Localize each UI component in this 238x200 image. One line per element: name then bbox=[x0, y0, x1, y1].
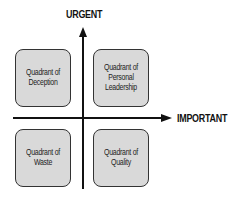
quadrant-label: Quadrant of Deception bbox=[22, 68, 65, 88]
important-label: IMPORTANT bbox=[177, 112, 227, 124]
quadrant-deception: Quadrant of Deception bbox=[15, 49, 71, 107]
horizontal-arrowhead bbox=[161, 114, 172, 122]
quadrant-quality: Quadrant of Quality bbox=[93, 129, 149, 187]
vertical-arrowhead bbox=[79, 27, 87, 37]
quadrant-waste: Quadrant of Waste bbox=[15, 129, 71, 187]
quadrant-label: Quadrant of Personal Leadership bbox=[103, 63, 139, 93]
quadrant-personal-leadership: Quadrant of Personal Leadership bbox=[93, 49, 149, 107]
quadrant-label: Quadrant of Quality bbox=[100, 148, 143, 168]
quadrant-label: Quadrant of Waste bbox=[22, 148, 65, 168]
urgent-label: URGENT bbox=[66, 8, 102, 20]
